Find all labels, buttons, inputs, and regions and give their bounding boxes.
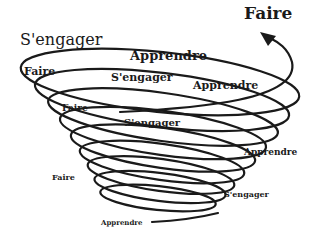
label-sengager-1: S'engager: [20, 32, 102, 48]
label-sengager-2: S'engager: [111, 72, 173, 83]
spiral-tail: [152, 213, 218, 222]
arrow-label-faire: Faire: [244, 5, 292, 22]
spiral-loop-9: [99, 180, 217, 216]
label-apprendre-2: Apprendre: [193, 80, 258, 91]
label-faire-3: Faire: [52, 173, 75, 181]
label-apprendre-4: Apprendre: [101, 219, 143, 226]
label-faire-2: Faire: [62, 104, 88, 113]
label-apprendre-3: Apprendre: [244, 148, 297, 157]
spiral-loop-7: [85, 149, 236, 201]
label-faire-1: Faire: [24, 66, 55, 77]
label-sengager-4: S'engager: [224, 190, 269, 198]
label-sengager-3: S'engager: [124, 118, 180, 128]
label-apprendre-1: Apprendre: [130, 49, 207, 62]
